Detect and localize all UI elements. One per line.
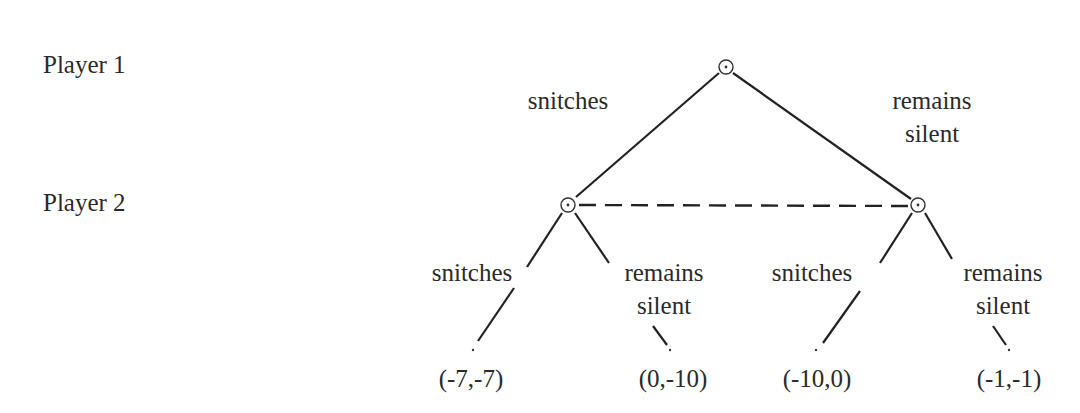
edge-p1-silent [733,73,911,199]
edge-p2r-silent-lower [993,326,1006,345]
payoff-silent-silent: (-1,-1) [977,364,1042,394]
action-label-p2r-silent: silent [976,291,1030,321]
payoff-snitch-silent: (0,-10) [639,364,708,394]
terminal-dot [1008,349,1010,351]
payoff-snitch-snitch: (-7,-7) [439,364,504,394]
action-label-p2r-snitches: snitches [772,258,853,288]
edge-p2r-snitches-upper [880,213,912,263]
tree-edges [0,0,1080,413]
terminal-dot [472,349,474,351]
action-label-p1-snitches: snitches [528,86,609,116]
edge-p2r-snitches-lower [823,291,860,343]
p2-left-node-icon [561,198,575,212]
action-label-p2l-silent: silent [637,291,691,321]
action-label-p1-silent: silent [905,119,959,149]
information-set-dashed-line [579,205,908,206]
terminal-dot [669,349,671,351]
payoff-silent-snitch: (-10,0) [783,364,852,394]
edge-p2l-snitches-lower [478,288,514,341]
game-tree-diagram: Player 1 Player 2 snitches remains silen… [0,0,1080,413]
edge-p2r-silent-upper [925,213,952,259]
player-1-label: Player 1 [43,50,126,80]
edge-p2l-snitches-upper [527,213,562,267]
terminal-dot [815,349,817,351]
action-label-p2r-remains: remains [963,258,1042,288]
root-node-icon [719,60,733,74]
p2-right-node-icon [911,198,925,212]
action-label-p1-remains: remains [892,86,971,116]
edge-p2l-silent-upper [575,213,609,263]
edge-p2l-silent-lower [653,326,667,345]
player-2-label: Player 2 [43,188,126,218]
action-label-p2l-remains: remains [624,258,703,288]
action-label-p2l-snitches: snitches [432,258,513,288]
